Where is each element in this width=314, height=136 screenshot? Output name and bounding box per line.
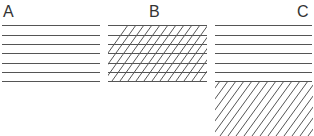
hatch-diagram [0,0,314,136]
panel-a-lines [2,26,100,82]
panel-c-hatch [180,81,314,136]
panel-c-lines [215,26,312,82]
